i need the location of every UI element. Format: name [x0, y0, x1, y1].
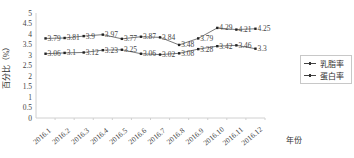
- data-point-marker-icon: [254, 48, 256, 50]
- x-tick-label: 2016.7: [146, 126, 168, 146]
- legend-label: 蛋白率: [320, 70, 344, 81]
- data-label: 3.23: [105, 46, 118, 55]
- data-label: 3.1: [67, 48, 77, 57]
- x-axis: 2016.12016.22016.32016.42016.52016.62016…: [31, 118, 265, 147]
- data-label: 4.29: [219, 23, 232, 32]
- y-tick-label: 3.5: [23, 40, 33, 49]
- legend-line-marker-icon: [304, 63, 316, 64]
- legend-label: 乳脂率: [320, 58, 344, 69]
- data-label: 3.28: [200, 45, 213, 54]
- data-point-marker-icon: [254, 28, 256, 30]
- data-label: 3.3: [257, 44, 267, 53]
- x-tick-label: 2016.3: [69, 126, 91, 146]
- data-point-marker-icon: [44, 53, 46, 55]
- data-point-marker-icon: [178, 44, 180, 46]
- data-point-marker-icon: [235, 44, 237, 46]
- series-layer: 3.793.813.93.973.773.873.843.483.794.294…: [44, 23, 270, 59]
- data-point-marker-icon: [83, 51, 85, 53]
- data-point-marker-icon: [121, 38, 123, 40]
- legend-item-protein-rate: 蛋白率: [304, 70, 344, 81]
- data-point-marker-icon: [159, 36, 161, 38]
- data-label: 3.77: [124, 34, 137, 43]
- data-point-marker-icon: [102, 33, 104, 35]
- data-label: 3.87: [143, 32, 156, 41]
- data-label: 3.02: [162, 50, 175, 59]
- data-label: 3.81: [67, 33, 80, 42]
- x-tick-label: 2016.6: [127, 126, 149, 146]
- data-label: 3.06: [48, 49, 61, 58]
- data-label: 3.08: [181, 49, 194, 58]
- y-tick-label: 5: [28, 9, 32, 18]
- y-tick-label: 3: [28, 51, 32, 60]
- data-point-marker-icon: [44, 37, 46, 39]
- y-tick-label: 0.5: [23, 103, 33, 112]
- data-label: 3.79: [48, 34, 61, 43]
- data-point-marker-icon: [140, 36, 142, 38]
- data-point-marker-icon: [63, 52, 65, 54]
- data-point-marker-icon: [159, 53, 161, 55]
- y-tick-label: 1: [28, 93, 32, 102]
- legend-line-marker-icon: [304, 75, 316, 76]
- legend: 乳脂率 蛋白率: [300, 55, 352, 84]
- data-point-marker-icon: [216, 27, 218, 29]
- x-tick-label: 2016.9: [184, 126, 206, 146]
- data-label: 3.06: [143, 49, 156, 58]
- data-label: 3.25: [124, 45, 137, 54]
- data-label: 4.21: [238, 25, 251, 34]
- data-point-marker-icon: [83, 35, 85, 37]
- y-tick-label: 0: [28, 114, 32, 123]
- data-point-marker-icon: [63, 37, 65, 39]
- y-axis: 00.511.522.533.544.55: [23, 9, 36, 123]
- x-tick-label: 2016.12: [240, 125, 265, 148]
- x-tick-label: 2016.2: [50, 126, 72, 146]
- y-tick-label: 4: [28, 30, 32, 39]
- data-label: 3.12: [86, 48, 99, 57]
- y-tick-label: 2: [28, 72, 32, 81]
- data-label: 4.25: [257, 24, 270, 33]
- data-label: 3.42: [219, 42, 232, 51]
- legend-item-fat-rate: 乳脂率: [304, 58, 344, 69]
- data-point-marker-icon: [140, 53, 142, 55]
- y-tick-label: 1.5: [23, 82, 33, 91]
- data-point-marker-icon: [235, 28, 237, 30]
- x-tick-label: 2016.5: [107, 126, 129, 146]
- data-label: 3.79: [200, 34, 213, 43]
- data-label: 3.46: [238, 41, 251, 50]
- x-tick-label: 2016.4: [88, 126, 110, 146]
- y-tick-label: 4.5: [23, 19, 33, 28]
- x-axis-title: 年份: [286, 135, 302, 145]
- data-point-marker-icon: [197, 37, 199, 39]
- data-point-marker-icon: [121, 49, 123, 51]
- y-axis-title: 百分比（%）: [1, 43, 11, 90]
- data-point-marker-icon: [178, 52, 180, 54]
- data-label: 3.97: [105, 30, 118, 39]
- x-tick-label: 2016.1: [31, 126, 53, 146]
- data-point-marker-icon: [216, 45, 218, 47]
- data-label: 3.84: [162, 33, 175, 42]
- data-point-marker-icon: [197, 48, 199, 50]
- y-tick-label: 2.5: [23, 61, 33, 70]
- data-label: 3.9: [86, 32, 96, 41]
- x-tick-label: 2016.8: [165, 126, 187, 146]
- data-point-marker-icon: [102, 49, 104, 51]
